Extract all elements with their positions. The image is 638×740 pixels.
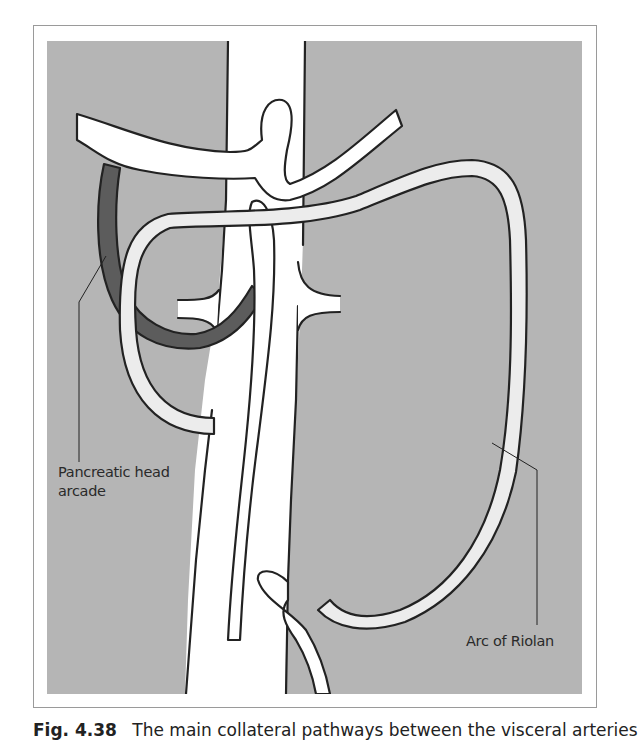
figure-caption: Fig. 4.38 The main collateral pathways b… (33, 720, 613, 740)
label-line-1: Pancreatic head (58, 463, 170, 482)
arc-of-riolan-label: Arc of Riolan (466, 632, 554, 651)
caption-text: The main collateral pathways between the… (132, 720, 637, 740)
anatomical-diagram (47, 41, 582, 694)
label-line-2: arcade (58, 482, 170, 501)
figure-number: Fig. 4.38 (33, 720, 117, 740)
pancreatic-head-arcade-label: Pancreatic head arcade (58, 463, 170, 501)
